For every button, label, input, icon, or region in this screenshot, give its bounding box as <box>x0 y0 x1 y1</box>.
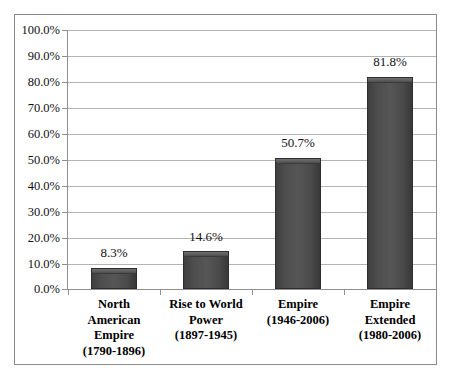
category-label: Empire (1946-2006) <box>252 297 344 328</box>
category-label-line: Power <box>160 313 252 329</box>
bar[interactable] <box>275 158 321 289</box>
y-tick-label: 60.0% <box>0 128 60 141</box>
category-label-line: Empire <box>68 328 160 344</box>
bar-value-label: 8.3% <box>100 245 127 261</box>
y-tick-label: 30.0% <box>0 206 60 219</box>
y-tick-label: 90.0% <box>0 50 60 63</box>
x-tick-mark <box>160 289 161 295</box>
y-tick-label: 80.0% <box>0 76 60 89</box>
bar-value-label: 50.7% <box>281 135 315 151</box>
bar-value-label: 14.6% <box>189 229 223 245</box>
y-tick-label: 20.0% <box>0 232 60 245</box>
category-label: Empire Extended (1980-2006) <box>344 297 436 344</box>
bar[interactable] <box>183 251 229 289</box>
category-label-line: (1897-1945) <box>160 328 252 344</box>
bar[interactable] <box>367 77 413 289</box>
category-label-line: American <box>68 313 160 329</box>
bar-top-highlight <box>368 78 412 83</box>
category-label-line: North <box>68 297 160 313</box>
bar-top-highlight <box>276 159 320 164</box>
x-axis-category-labels: North American Empire (1790-1896) Rise t… <box>68 297 436 367</box>
bar-slot: 14.6% <box>160 30 252 289</box>
bars-layer: 8.3% 14.6% 50.7% 81.8% <box>68 30 436 289</box>
y-tick-label: 40.0% <box>0 180 60 193</box>
bar-slot: 8.3% <box>68 30 160 289</box>
y-axis-labels: 100.0% 90.0% 80.0% 70.0% 60.0% 50.0% 40.… <box>0 0 60 384</box>
y-tick-label: 70.0% <box>0 102 60 115</box>
bar-top-highlight <box>184 252 228 257</box>
bar-slot: 50.7% <box>252 30 344 289</box>
x-tick-mark <box>344 289 345 295</box>
x-tick-mark <box>68 289 69 295</box>
category-label: North American Empire (1790-1896) <box>68 297 160 359</box>
category-label: Rise to World Power (1897-1945) <box>160 297 252 344</box>
category-label-line: Extended <box>344 313 436 329</box>
category-label-line: Rise to World <box>160 297 252 313</box>
bar-chart: 100.0% 90.0% 80.0% 70.0% 60.0% 50.0% 40.… <box>0 0 453 384</box>
y-tick-label: 10.0% <box>0 258 60 271</box>
category-label-line: Empire <box>344 297 436 313</box>
bar-slot: 81.8% <box>344 30 436 289</box>
x-tick-mark <box>436 289 437 295</box>
plot-area: 8.3% 14.6% 50.7% 81.8% <box>68 30 436 289</box>
category-label-line: (1946-2006) <box>252 313 344 329</box>
bar-top-highlight <box>92 269 136 274</box>
x-tick-mark <box>252 289 253 295</box>
bar[interactable] <box>91 268 137 290</box>
bar-value-label: 81.8% <box>373 54 407 70</box>
category-label-line: Empire <box>252 297 344 313</box>
y-tick-label: 100.0% <box>0 24 60 37</box>
category-label-line: (1980-2006) <box>344 328 436 344</box>
category-label-line: (1790-1896) <box>68 344 160 360</box>
y-tick-label: 0.0% <box>0 283 60 296</box>
y-tick-label: 50.0% <box>0 154 60 167</box>
